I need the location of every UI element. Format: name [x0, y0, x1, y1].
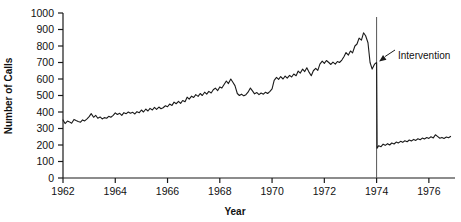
chart-container: 01002003004005006007008009001000 1962196…: [0, 0, 461, 222]
y-tick-label: 600: [36, 73, 54, 85]
y-tick-label: 0: [48, 172, 54, 184]
x-tick-label: 1968: [208, 185, 232, 197]
y-tick-label: 200: [36, 139, 54, 151]
y-tick-label: 800: [36, 40, 54, 52]
data-series-line: [63, 33, 451, 149]
x-axis-title: Year: [224, 206, 245, 217]
x-tick-label: 1964: [104, 185, 128, 197]
y-tick-label: 700: [36, 56, 54, 68]
y-axis-title: Number of Calls: [3, 57, 14, 134]
x-tick-label: 1976: [417, 185, 441, 197]
annotation-arrow-line: [385, 50, 395, 57]
intervention-annotation: Intervention: [379, 50, 450, 62]
x-axis-ticks: 19621964196619681970197219741976: [51, 178, 440, 197]
x-tick-label: 1972: [313, 185, 337, 197]
x-tick-label: 1970: [260, 185, 284, 197]
y-tick-label: 300: [36, 122, 54, 134]
x-tick-label: 1966: [156, 185, 180, 197]
line-chart: 01002003004005006007008009001000 1962196…: [0, 0, 461, 222]
y-axis-ticks: 01002003004005006007008009001000: [31, 7, 63, 184]
x-tick-label: 1974: [365, 185, 389, 197]
y-tick-label: 900: [36, 23, 54, 35]
y-tick-label: 500: [36, 89, 54, 101]
annotation-label: Intervention: [398, 50, 450, 61]
x-tick-label: 1962: [51, 185, 75, 197]
y-tick-label: 1000: [31, 7, 55, 19]
y-tick-label: 400: [36, 106, 54, 118]
y-tick-label: 100: [36, 155, 54, 167]
